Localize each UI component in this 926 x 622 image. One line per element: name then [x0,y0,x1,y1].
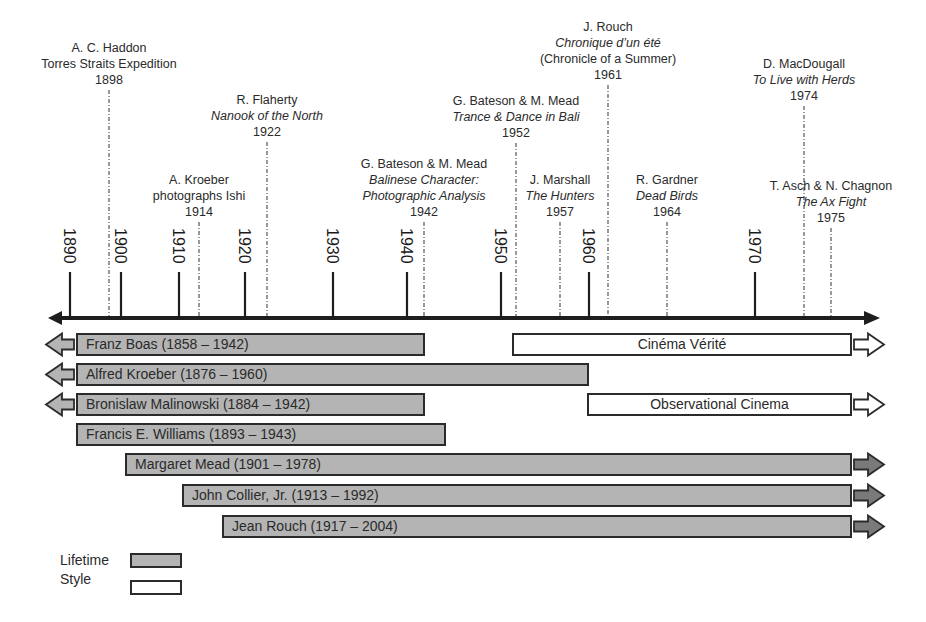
timeline-chart: 189019001910192019301940195019601970 A. … [0,0,926,622]
event-author: R. Flaherty [211,92,323,108]
event-author: G. Bateson & M. Mead [453,93,580,109]
lifetime-bar: Francis E. Williams (1893 – 1943) [76,423,446,446]
event-title: The Ax Fight [770,194,892,210]
arrow-left-icon [46,334,74,356]
event-author: J. Marshall [526,172,595,188]
axis-tick-label: 1910 [170,228,187,264]
event-label: J. MarshallThe Hunters1957 [526,172,595,220]
event-title: Dead Birds [636,188,698,204]
event-author: J. Rouch [540,19,676,35]
axis-tick-label: 1950 [492,228,509,264]
event-year: 1957 [526,204,595,220]
event-year: 1964 [636,204,698,220]
event-label: G. Bateson & M. MeadTrance & Dance in Ba… [453,93,580,141]
event-label: J. RouchChronique d’un été(Chronicle of … [540,19,676,83]
event-title: Balinese Character: [361,172,487,188]
event-year: 1975 [770,210,892,226]
event-label: D. MacDougallTo Live with Herds1974 [753,56,855,104]
event-title: Chronique d’un été [540,35,676,51]
event-author: T. Asch & N. Chagnon [770,178,892,194]
event-year: 1914 [153,204,245,220]
event-author: A. Kroeber [153,172,245,188]
event-label: R. GardnerDead Birds1964 [636,172,698,220]
event-year: 1974 [753,88,855,104]
axis-tick-label: 1920 [236,228,253,264]
event-title: Photographic Analysis [361,188,487,204]
event-title: Trance & Dance in Bali [453,109,580,125]
event-label: A. C. HaddonTorres Straits Expedition189… [41,40,176,88]
event-title: The Hunters [526,188,595,204]
legend-lifetime-swatch [130,553,182,568]
style-bar: Cinéma Vérité [512,333,852,356]
axis-tick-label: 1940 [398,228,415,264]
arrow-right-icon [854,454,884,476]
event-label: A. Kroeberphotographs Ishi1914 [153,172,245,220]
event-title: (Chronicle of a Summer) [540,51,676,67]
lifetime-bar: Alfred Kroeber (1876 – 1960) [76,363,589,386]
event-author: D. MacDougall [753,56,855,72]
axis-arrow-left-icon [48,311,62,325]
arrow-left-icon [46,394,74,416]
lifetime-bar: Margaret Mead (1901 – 1978) [125,453,852,476]
axis-tick-label: 1930 [324,228,341,264]
event-year: 1961 [540,67,676,83]
event-year: 1942 [361,204,487,220]
legend-style-label: Style [60,571,91,587]
event-year: 1952 [453,125,580,141]
style-bar: Observational Cinema [587,393,852,416]
arrow-left-icon [46,364,74,386]
axis-tick-label: 1960 [580,228,597,264]
arrow-right-icon [854,516,884,538]
arrow-right-icon [854,485,884,507]
lifetime-bar: Bronislaw Malinowski (1884 – 1942) [76,393,425,416]
event-title: photographs Ishi [153,188,245,204]
event-year: 1898 [41,72,176,88]
legend-lifetime-label: Lifetime [60,552,109,568]
arrow-right-icon [854,334,884,356]
event-title: Torres Straits Expedition [41,56,176,72]
axis-tick-label: 1970 [746,228,763,264]
event-label: G. Bateson & M. MeadBalinese Character:P… [361,156,487,220]
lifetime-bar: John Collier, Jr. (1913 – 1992) [182,484,852,507]
event-label: T. Asch & N. ChagnonThe Ax Fight1975 [770,178,892,226]
legend-style-swatch [130,580,182,595]
event-author: R. Gardner [636,172,698,188]
event-author: A. C. Haddon [41,40,176,56]
event-title: Nanook of the North [211,108,323,124]
axis-arrow-right-icon [864,311,880,325]
lifetime-bar: Franz Boas (1858 – 1942) [76,333,425,356]
event-author: G. Bateson & M. Mead [361,156,487,172]
event-year: 1922 [211,124,323,140]
arrow-right-icon [854,394,884,416]
axis-tick-label: 1890 [61,228,78,264]
event-title: To Live with Herds [753,72,855,88]
axis-tick-label: 1900 [112,228,129,264]
event-label: R. FlahertyNanook of the North1922 [211,92,323,140]
lifetime-bar: Jean Rouch (1917 – 2004) [222,515,852,538]
